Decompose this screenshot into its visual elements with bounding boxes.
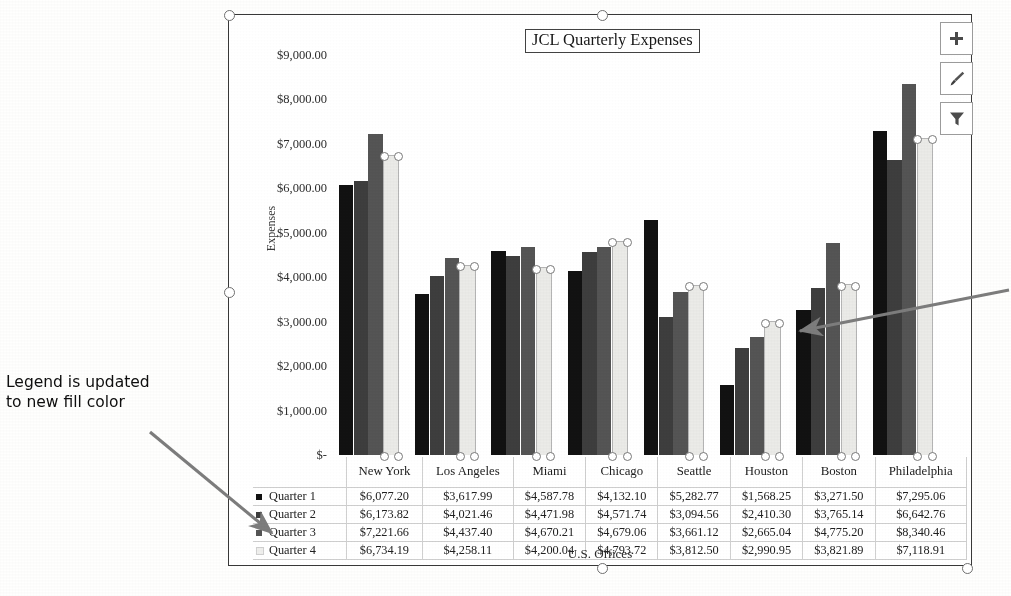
chart-handle-bottom-right[interactable] xyxy=(962,563,973,574)
series-selection-handle[interactable] xyxy=(775,319,784,328)
series-selection-handle[interactable] xyxy=(380,152,389,161)
plus-icon xyxy=(948,30,965,47)
series-selection-handle[interactable] xyxy=(928,452,937,461)
series-selection-handle[interactable] xyxy=(761,452,770,461)
series-selection-handle[interactable] xyxy=(775,452,784,461)
series-selection-handle[interactable] xyxy=(623,452,632,461)
series-selection-handle[interactable] xyxy=(532,452,541,461)
series-selection-handle[interactable] xyxy=(394,452,403,461)
chart-quick-buttons xyxy=(940,22,974,142)
series-selection-handle[interactable] xyxy=(380,452,389,461)
chart-styles-button[interactable] xyxy=(940,62,973,95)
series-selection-handle[interactable] xyxy=(456,452,465,461)
series-selection-handle[interactable] xyxy=(837,452,846,461)
series-selection-handle[interactable] xyxy=(761,319,770,328)
chart-elements-button[interactable] xyxy=(940,22,973,55)
series-selection-handle[interactable] xyxy=(470,452,479,461)
chart-handle-middle-left[interactable] xyxy=(224,287,235,298)
series-selection-handle[interactable] xyxy=(699,282,708,291)
series-selection-handle[interactable] xyxy=(837,282,846,291)
series-selection-handle[interactable] xyxy=(928,135,937,144)
series-selection-handle[interactable] xyxy=(685,452,694,461)
series-selection-handle[interactable] xyxy=(851,452,860,461)
series-selection-handle[interactable] xyxy=(685,282,694,291)
chart-filters-button[interactable] xyxy=(940,102,973,135)
series-selection-handle[interactable] xyxy=(546,452,555,461)
series-selection-handle[interactable] xyxy=(532,265,541,274)
series-selection-handle[interactable] xyxy=(608,452,617,461)
chart-handle-top-left[interactable] xyxy=(224,10,235,21)
funnel-icon xyxy=(948,110,966,128)
annotation-arrow-left xyxy=(0,0,1011,596)
series-selection-handle[interactable] xyxy=(913,452,922,461)
chart-handle-bottom-center[interactable] xyxy=(597,563,608,574)
series-selection-handle[interactable] xyxy=(699,452,708,461)
chart-handle-top-center[interactable] xyxy=(597,10,608,21)
paintbrush-icon xyxy=(948,70,966,88)
